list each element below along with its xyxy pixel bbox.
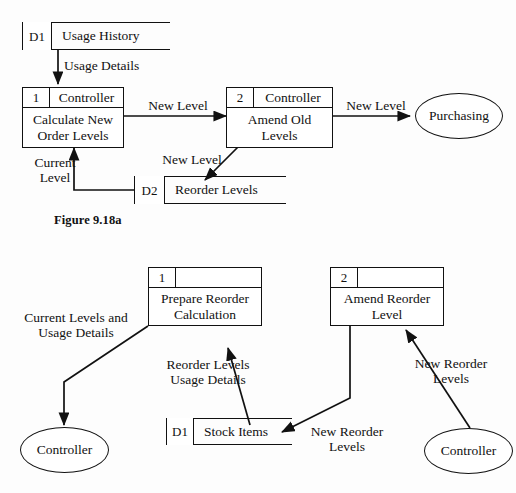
process-name: Amend Reorder Level bbox=[331, 288, 443, 325]
data-store-stock-items[interactable]: D1 Stock Items bbox=[166, 418, 292, 445]
flow-current-levels-usage-details bbox=[64, 326, 148, 425]
external-entity-controller-right[interactable]: Controller bbox=[424, 428, 513, 474]
process-actor: Controller bbox=[50, 88, 123, 107]
flow-label-usage-details: Usage Details bbox=[64, 58, 139, 73]
external-entity-controller-left[interactable]: Controller bbox=[20, 427, 109, 473]
process-id: 2 bbox=[331, 268, 358, 287]
store-id-cell: D1 bbox=[166, 418, 194, 445]
flow-label-new-reorder-levels-process: New Reorder Levels bbox=[398, 356, 504, 387]
data-store-reorder-levels[interactable]: D2 Reorder Levels bbox=[134, 176, 286, 204]
store-id: D2 bbox=[142, 184, 158, 197]
flow-label-current-level: Current Level bbox=[24, 155, 86, 186]
flow-label-new-level-purchasing: New Level bbox=[338, 98, 414, 113]
process-actor: Controller bbox=[254, 88, 332, 107]
data-store-usage-history[interactable]: D1 Usage History bbox=[22, 22, 170, 50]
process-header: 2 Controller bbox=[227, 88, 332, 108]
process-header: 1 Controller bbox=[23, 88, 123, 108]
flow-label-new-level-d2: New Level bbox=[150, 152, 234, 167]
flow-new-reorder-levels-store bbox=[282, 325, 350, 432]
store-id: D1 bbox=[172, 425, 188, 438]
diagram-page: D1 Usage History Usage Details 1 Control… bbox=[0, 0, 516, 493]
process-box-amend-old-levels[interactable]: 2 Controller Amend Old Levels bbox=[226, 87, 333, 148]
process-box-calculate-new-order-levels[interactable]: 1 Controller Calculate New Order Levels bbox=[22, 87, 124, 148]
process-actor bbox=[358, 268, 443, 287]
external-entity-purchasing[interactable]: Purchasing bbox=[415, 93, 503, 139]
process-header: 1 bbox=[149, 268, 261, 288]
flow-label-new-level-1-2: New Level bbox=[136, 98, 220, 113]
process-name: Calculate New Order Levels bbox=[23, 108, 123, 147]
store-id-cell: D1 bbox=[22, 22, 52, 50]
flow-label-new-reorder-levels-store: New Reorder Levels bbox=[295, 424, 399, 455]
process-box-prepare-reorder-calculation[interactable]: 1 Prepare Reorder Calculation bbox=[148, 267, 262, 326]
store-name: Usage History bbox=[62, 22, 140, 50]
figure-caption: Figure 9.18a bbox=[54, 214, 122, 227]
store-name: Reorder Levels bbox=[175, 176, 258, 204]
process-id: 1 bbox=[23, 88, 50, 107]
process-name: Prepare Reorder Calculation bbox=[149, 288, 261, 325]
process-header: 2 bbox=[331, 268, 443, 288]
store-id: D1 bbox=[29, 30, 45, 43]
process-actor bbox=[176, 268, 261, 287]
store-id-cell: D2 bbox=[134, 176, 165, 204]
process-name: Amend Old Levels bbox=[227, 108, 332, 147]
process-id: 1 bbox=[149, 268, 176, 287]
process-id: 2 bbox=[227, 88, 254, 107]
process-box-amend-reorder-level[interactable]: 2 Amend Reorder Level bbox=[330, 267, 444, 326]
flow-label-current-levels-usage-details: Current Levels and Usage Details bbox=[8, 310, 144, 341]
flow-label-reorder-levels-usage-details: Reorder Levels Usage Details bbox=[152, 357, 264, 388]
store-name: Stock Items bbox=[204, 418, 268, 445]
